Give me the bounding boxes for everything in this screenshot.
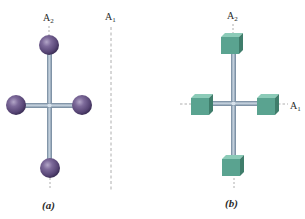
cube-left (191, 94, 213, 115)
label-a-axis-a1: A1 (105, 12, 116, 24)
panel-a (6, 26, 111, 190)
sphere-bottom (40, 158, 60, 178)
sphere-right (72, 95, 92, 115)
rotational-inertia-figure (0, 0, 305, 219)
label-b-axis-a1-sub: 1 (297, 105, 301, 113)
b-rod-junction (232, 102, 236, 106)
sphere-left (6, 95, 26, 115)
label-a-axis-a1-sub: 1 (112, 16, 116, 24)
sphere-top (39, 35, 59, 55)
label-b-axis-a1: A1 (290, 101, 301, 113)
rod-junction (48, 104, 52, 108)
panel-b (180, 24, 288, 190)
label-b-axis-a2-sub: 2 (234, 15, 238, 23)
label-a-axis-a2: A2 (43, 13, 54, 25)
cube-bottom (222, 155, 244, 176)
label-b-axis-a2: A2 (227, 11, 238, 23)
caption-b: (b) (225, 198, 238, 209)
label-a-axis-a2-sub: 2 (50, 17, 54, 25)
cube-top (221, 33, 243, 54)
caption-a: (a) (42, 200, 55, 211)
cube-right (257, 94, 279, 115)
